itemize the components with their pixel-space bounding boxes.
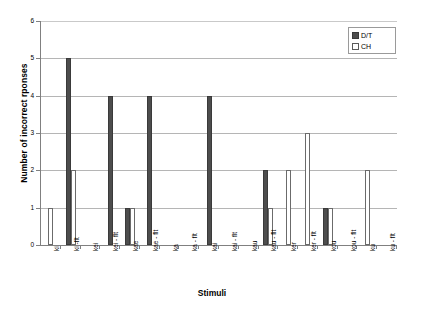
x-axis-tick-label: kou <box>330 241 337 251</box>
x-axis-tick-mark <box>317 245 318 249</box>
bar-column <box>61 21 81 245</box>
legend-swatch-ch-icon <box>352 43 359 50</box>
bar-column <box>199 21 219 245</box>
x-axis-tick-label: kou - flt <box>350 230 357 251</box>
x-axis-tick-label: kae - flt <box>152 230 159 251</box>
bar-ch <box>71 170 76 245</box>
y-axis-tick-label: 2 <box>16 166 34 173</box>
chart-legend: D/T CH <box>348 27 396 54</box>
x-axis-tick-mark <box>198 245 199 249</box>
bar-column <box>120 21 140 245</box>
x-axis-tick-label: kai <box>211 243 218 251</box>
bar-column <box>140 21 160 245</box>
bar-column <box>219 21 239 245</box>
x-axis-tick-label: ka - flt <box>191 233 198 251</box>
bar-column <box>377 21 397 245</box>
x-axis-tick-label: ker <box>290 242 297 251</box>
bar-ch <box>365 170 370 245</box>
bar-column <box>318 21 338 245</box>
x-axis-tick-mark <box>99 245 100 249</box>
x-axis-tick-label: kai - flt <box>231 232 238 251</box>
bar-ch <box>305 133 310 245</box>
x-axis-tick-label: kau - flt <box>270 230 277 251</box>
bar-ch <box>328 208 333 245</box>
y-axis-tick-label: 1 <box>16 204 34 211</box>
x-axis-tick-mark <box>396 245 397 249</box>
y-axis-tick-label: 3 <box>16 129 34 136</box>
bar-column <box>259 21 279 245</box>
bar-dt <box>207 96 212 245</box>
plot-area <box>40 21 397 246</box>
legend-label-dt: D/T <box>361 31 372 40</box>
x-axis-tick-label: kei - flt <box>112 232 119 251</box>
x-axis-tick-label: kau <box>251 241 258 251</box>
bar-column <box>338 21 358 245</box>
legend-item-dt: D/T <box>352 30 392 41</box>
bar-column <box>100 21 120 245</box>
bar-column <box>41 21 61 245</box>
bar-dt <box>108 96 113 245</box>
x-axis-tick-label: ku - flt <box>389 233 396 251</box>
y-axis-tick-label: 6 <box>16 17 34 24</box>
x-axis-tick-mark <box>277 245 278 249</box>
bar-column <box>160 21 180 245</box>
bar-ch <box>48 208 53 245</box>
x-axis-tick-label: ku <box>369 244 376 251</box>
bar-column <box>81 21 101 245</box>
bar-column <box>298 21 318 245</box>
bar-dt <box>147 96 152 245</box>
x-axis-tick-mark <box>218 245 219 249</box>
bar-column <box>278 21 298 245</box>
x-axis-tick-mark <box>376 245 377 249</box>
y-axis-tick-label: 4 <box>16 92 34 99</box>
x-axis-tick-label: kei <box>92 243 99 251</box>
bar-ch <box>286 170 291 245</box>
bar-chart: Number of incorrect rponses 0123456 kiki… <box>0 0 424 310</box>
x-axis-tick-label: ka <box>172 244 179 251</box>
x-axis-tick-mark <box>119 245 120 249</box>
x-axis-tick-label: ki <box>53 246 60 251</box>
bar-column <box>239 21 259 245</box>
x-axis-tick-label: ker - flt <box>310 231 317 251</box>
x-axis-tick-mark <box>139 245 140 249</box>
bar-column <box>357 21 377 245</box>
x-axis-tick-mark <box>297 245 298 249</box>
x-axis-title: Stimuli <box>0 288 424 298</box>
bar-column <box>179 21 199 245</box>
y-axis-tick-label: 5 <box>16 54 34 61</box>
legend-item-ch: CH <box>352 41 392 52</box>
x-axis-tick-label: kae <box>132 241 139 251</box>
legend-swatch-dt-icon <box>352 32 359 39</box>
bar-ch <box>130 208 135 245</box>
legend-label-ch: CH <box>361 42 371 51</box>
y-axis-tick-label: 0 <box>16 241 34 248</box>
x-axis-tick-label: ki -flt <box>73 237 80 251</box>
